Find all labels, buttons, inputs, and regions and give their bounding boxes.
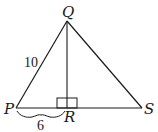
triangle-diagram: Q P R S 10 6 xyxy=(0,0,158,132)
label-q: Q xyxy=(62,3,74,21)
segment-qs xyxy=(67,21,142,108)
length-pq: 10 xyxy=(24,55,38,70)
label-s: S xyxy=(144,100,154,118)
label-p: P xyxy=(3,100,15,118)
label-r: R xyxy=(63,108,75,126)
brace-pr xyxy=(17,111,65,117)
length-pr: 6 xyxy=(37,118,44,132)
